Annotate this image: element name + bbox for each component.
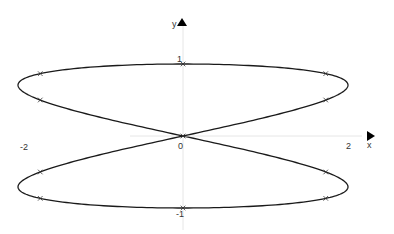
tick-label-1: 1 (177, 55, 182, 64)
tick-label-2: 2 (346, 142, 351, 151)
y-axis-arrow-icon (177, 18, 187, 26)
tick-label-neg-2: -2 (20, 143, 28, 152)
x-axis-label: x (367, 141, 372, 150)
tick-label-0: 0 (178, 142, 183, 151)
plot-area (0, 0, 394, 234)
tick-label-neg-1: -1 (176, 210, 184, 219)
y-axis-label: y (172, 20, 177, 29)
